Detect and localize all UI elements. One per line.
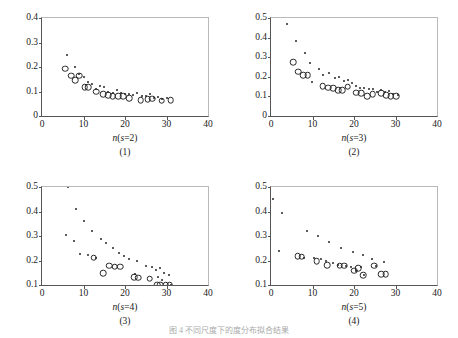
data-point-dot	[272, 198, 274, 200]
plot-frame-2: 00.10.20.30.40.5010203040	[270, 17, 438, 117]
plot-area-1	[42, 18, 208, 116]
data-point-dot	[388, 90, 390, 92]
y-tick-mark	[268, 116, 272, 117]
data-point-circle	[382, 271, 389, 278]
data-point-dot	[368, 88, 370, 90]
x-tick-label: 30	[162, 289, 172, 299]
plot-frame-3: 0.10.20.30.40.5010203040	[41, 186, 209, 286]
data-point-circle	[369, 91, 376, 98]
y-tick-label: 0.2	[26, 62, 38, 72]
data-point-dot	[383, 261, 385, 263]
x-tick-label: 0	[40, 289, 45, 299]
data-point-dot	[163, 272, 165, 274]
data-point-circle	[167, 281, 174, 285]
chart-panel-1: 00.10.20.30.4010203040 n(s=2) (1)	[0, 0, 229, 169]
data-point-circle	[355, 265, 362, 272]
y-tick-mark	[39, 285, 43, 286]
data-point-dot	[322, 74, 324, 76]
data-point-dot	[351, 82, 353, 84]
data-point-dot	[309, 62, 311, 64]
y-tick-mark	[268, 77, 272, 78]
data-point-dot	[343, 80, 345, 82]
data-point-dot	[66, 54, 68, 56]
data-point-circle	[149, 96, 156, 103]
data-point-circle	[371, 263, 378, 270]
data-point-dot	[359, 87, 361, 89]
x-tick-label: 10	[308, 120, 318, 130]
data-point-dot	[328, 241, 330, 243]
x-tick-label: 10	[79, 289, 89, 299]
plot-frame-4: 0.10.20.30.40.5010203040	[270, 186, 438, 286]
data-point-dot	[304, 52, 306, 54]
data-point-dot	[136, 260, 138, 262]
x-axis-title-3: n(s=4)	[41, 302, 209, 312]
data-point-dot	[100, 238, 102, 240]
y-tick-mark	[268, 212, 272, 213]
data-point-circle	[290, 59, 297, 66]
x-tick-label: 20	[349, 120, 359, 130]
y-tick-label: 0.5	[255, 13, 267, 23]
y-tick-mark	[268, 18, 272, 19]
data-point-dot	[332, 262, 334, 264]
y-tick-label: 0.1	[26, 280, 38, 290]
data-point-dot	[295, 40, 297, 42]
y-tick-mark	[268, 187, 272, 188]
plot-area-2	[271, 18, 437, 116]
y-tick-label: 0.4	[26, 13, 38, 23]
y-tick-label: 0.4	[255, 207, 267, 217]
data-point-dot	[317, 235, 319, 237]
y-tick-label: 0.3	[255, 231, 267, 241]
data-point-dot	[83, 220, 85, 222]
panel-number-1: (1)	[41, 147, 209, 157]
x-tick-label: 20	[349, 289, 359, 299]
y-tick-label: 0.2	[26, 256, 38, 266]
data-point-circle	[117, 263, 124, 270]
data-point-dot	[320, 258, 322, 260]
data-point-dot	[362, 254, 364, 256]
y-tick-label: 0.3	[26, 231, 38, 241]
data-point-circle	[85, 84, 92, 91]
y-tick-mark	[39, 43, 43, 44]
x-tick-label: 0	[269, 289, 274, 299]
data-point-dot	[112, 247, 114, 249]
data-point-dot	[118, 252, 120, 254]
data-point-dot	[306, 230, 308, 232]
y-tick-label: 0.1	[255, 280, 267, 290]
y-tick-label: 0.3	[26, 38, 38, 48]
data-point-dot	[145, 265, 147, 267]
x-tick-label: 40	[432, 289, 442, 299]
data-point-dot	[132, 94, 134, 96]
x-tick-label: 30	[391, 120, 401, 130]
data-point-dot	[372, 88, 374, 90]
data-point-dot	[99, 85, 101, 87]
x-axis-title-4: n(s=5)	[270, 302, 438, 312]
figure-container: 00.10.20.30.4010203040 n(s=2) (1) 00.10.…	[0, 0, 458, 338]
x-tick-label: 40	[203, 120, 213, 130]
data-point-dot	[281, 212, 283, 214]
data-point-circle	[298, 254, 305, 261]
data-point-dot	[338, 76, 340, 78]
data-point-dot	[103, 86, 105, 88]
y-tick-mark	[268, 96, 272, 97]
y-tick-label: 0.5	[255, 182, 267, 192]
y-tick-label: 0.5	[26, 182, 38, 192]
plot-frame-1: 00.10.20.30.4010203040	[41, 17, 209, 117]
chart-panel-4: 0.10.20.30.40.5010203040 n(s=5) (4)	[229, 169, 458, 318]
data-point-circle	[313, 258, 320, 265]
data-point-dot	[278, 250, 280, 252]
data-point-dot	[318, 68, 320, 70]
data-point-circle	[324, 262, 331, 269]
data-point-dot	[352, 251, 354, 253]
y-tick-mark	[39, 236, 43, 237]
data-point-circle	[76, 72, 83, 79]
x-tick-label: 0	[40, 120, 45, 130]
data-point-circle	[62, 65, 69, 72]
data-point-circle	[137, 97, 144, 104]
data-point-dot	[161, 279, 163, 281]
plot-area-3	[42, 187, 208, 285]
data-point-circle	[344, 83, 351, 90]
x-tick-label: 30	[162, 120, 172, 130]
data-point-dot	[355, 85, 357, 87]
data-point-dot	[151, 266, 153, 268]
data-point-circle	[100, 270, 107, 277]
